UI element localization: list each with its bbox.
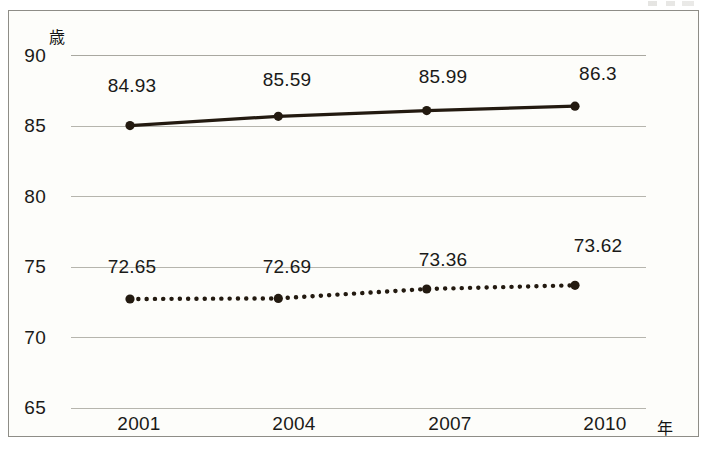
life-expectancy-line-chart: 歳 90 85 80 75 70 65 2001 2004 2007 2010 …: [0, 0, 708, 449]
data-point-male-2004: [274, 294, 283, 303]
series-male-line: [130, 285, 575, 299]
series-female-line: [130, 106, 575, 125]
data-point-male-2001: [125, 294, 134, 303]
data-point-female-2001: [125, 121, 134, 130]
data-point-female-2007: [422, 106, 431, 115]
series-female-markers: [125, 102, 579, 131]
data-point-male-2010: [570, 281, 579, 290]
data-point-female-2004: [274, 112, 283, 121]
series-layer: [0, 0, 708, 449]
data-point-male-2007: [422, 284, 431, 293]
data-point-female-2010: [570, 102, 579, 111]
